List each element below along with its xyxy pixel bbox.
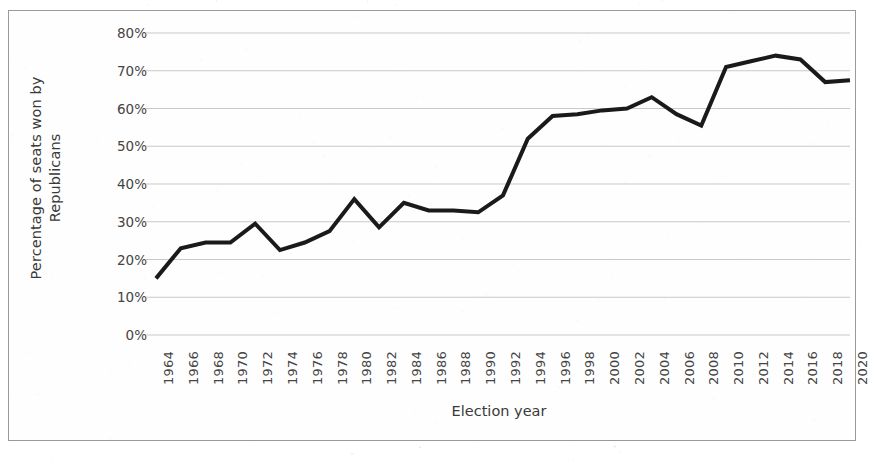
chart-plot-area: Percentage of seats won by Republicans 0… <box>9 11 857 442</box>
gridlines <box>146 33 850 335</box>
chart-frame: Percentage of seats won by Republicans 0… <box>8 10 856 441</box>
chart-svg <box>9 11 857 442</box>
data-series-line <box>156 56 850 279</box>
series-line <box>156 56 850 279</box>
x-axis-tick-label: 2020 <box>855 351 870 385</box>
x-axis-title: Election year <box>149 403 849 419</box>
